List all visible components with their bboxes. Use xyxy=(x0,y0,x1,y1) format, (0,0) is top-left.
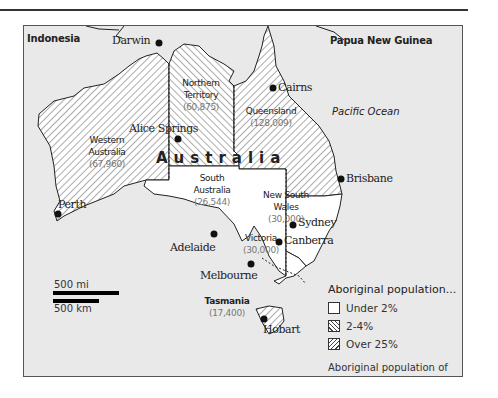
label-australia: Australia xyxy=(156,149,286,167)
legend-item-under-2: Under 2% xyxy=(328,302,398,314)
label-canberra: Canberra xyxy=(284,234,334,247)
scale-miles-label: 500 mi xyxy=(54,279,89,290)
city-dot-hobart xyxy=(261,316,268,323)
state-label-queensland: Queensland(128,009) xyxy=(236,105,306,129)
scale-km-label: 500 km xyxy=(54,303,92,314)
label-melbourne: Melbourne xyxy=(200,269,257,282)
label-papua-new-guinea: Papua New Guinea xyxy=(330,35,432,46)
city-dot-cairns xyxy=(270,85,277,92)
label-hobart: Hobart xyxy=(263,323,300,336)
scale-bar-miles xyxy=(53,291,119,295)
label-darwin: Darwin xyxy=(112,34,150,47)
map-frame: Indonesia Papua New Guinea Pacific Ocean… xyxy=(23,25,463,377)
city-dot-darwin xyxy=(156,40,163,47)
label-perth: Perth xyxy=(58,198,86,211)
legend-note: Aboriginal population of states in brack… xyxy=(328,361,460,377)
swatch-backslash-hatch-icon xyxy=(328,320,340,332)
legend-item-over-25: Over 25% xyxy=(328,338,398,350)
legend-item-2-4: 2-4% xyxy=(328,320,373,332)
state-label-northern-territory: NorthernTerritory(60,875) xyxy=(171,77,231,113)
australia-map xyxy=(24,26,463,377)
top-rule xyxy=(0,9,468,11)
label-pacific-ocean: Pacific Ocean xyxy=(332,106,400,117)
label-cairns: Cairns xyxy=(278,81,312,94)
label-adelaide: Adelaide xyxy=(170,241,215,254)
swatch-plain-icon xyxy=(328,302,340,314)
state-label-victoria: Victoria(30,000) xyxy=(236,232,286,256)
legend-title: Aboriginal population... xyxy=(328,283,456,296)
label-indonesia: Indonesia xyxy=(27,33,80,44)
city-dot-perth xyxy=(55,211,62,218)
city-dot-adelaide xyxy=(211,231,218,238)
state-label-south-australia: SouthAustralia(26,544) xyxy=(182,172,242,208)
swatch-slash-hatch-icon xyxy=(328,338,340,350)
city-dot-alice-springs xyxy=(175,136,182,143)
label-brisbane: Brisbane xyxy=(346,172,393,185)
city-dot-melbourne xyxy=(248,261,255,268)
city-dot-brisbane xyxy=(338,176,345,183)
state-label-western-australia: WesternAustralia(67,960) xyxy=(72,134,142,170)
state-label-new-south-wales: New SouthWales(30,000) xyxy=(256,189,316,225)
state-label-tasmania: Tasmania(17,400) xyxy=(200,295,254,319)
